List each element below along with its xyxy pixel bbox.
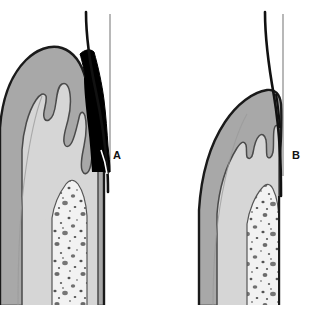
panel-label-b: B (292, 150, 300, 161)
panel-label-a: A (113, 150, 121, 161)
panel-a-bottom-crop (0, 305, 155, 313)
panel-b-bottom-crop (155, 305, 311, 313)
panel-a-diseased-periodontium (0, 0, 155, 313)
dental-comparison-figure: A B (0, 0, 311, 313)
panel-b-healthy-periodontium (155, 0, 311, 313)
dental-pulp-a (52, 180, 87, 306)
